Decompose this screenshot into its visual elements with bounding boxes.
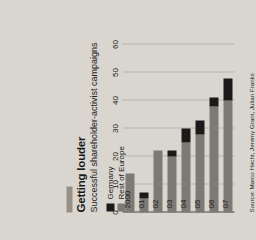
category-label-01: 01: [137, 200, 147, 201]
bar-segment-rest-of-europe: [195, 134, 199, 201]
bar-row[interactable]: [153, 45, 162, 202]
bar-row[interactable]: [181, 45, 190, 202]
page-title: Getting louder: [75, 137, 88, 201]
category-label-05: 05: [193, 200, 200, 201]
bar-row[interactable]: [167, 45, 176, 202]
chart-subtitle: Successful shareholder-activist campaign…: [89, 42, 100, 201]
bar-segment-germany: [139, 193, 148, 199]
category-label-04: 04: [179, 200, 189, 201]
x-tick-label-50: 50: [111, 68, 121, 77]
bar-segment-rest-of-europe: [181, 143, 190, 202]
x-tick-label-30: 30: [111, 124, 121, 133]
rotated-page-canvas: Getting louder Successful shareholder-ac…: [61, 20, 200, 202]
x-tick-label-40: 40: [111, 96, 121, 105]
x-axis-tick-labels: 0102030405060: [111, 45, 123, 202]
x-tick-label-10: 10: [111, 180, 121, 189]
category-label-2000: 2000: [123, 191, 133, 201]
x-tick-label-20: 20: [111, 152, 121, 161]
bar-segment-germany: [167, 151, 176, 157]
bar-segment-rest-of-europe: [153, 151, 162, 201]
category-label-02: 02: [151, 200, 161, 201]
plot-area: 0102030405060 200001020304050607: [123, 45, 200, 202]
chart-figure: Getting louder Successful shareholder-ac…: [61, 20, 200, 202]
bar-segment-rest-of-europe: [167, 157, 176, 202]
bar-series-group: [123, 45, 200, 202]
bar-row[interactable]: [139, 45, 148, 202]
accent-rule: [67, 187, 73, 202]
bar-row[interactable]: [195, 45, 199, 202]
category-label-03: 03: [165, 200, 175, 201]
bar-segment-germany: [195, 120, 199, 134]
bar-row[interactable]: [125, 45, 134, 202]
bar-segment-germany: [181, 129, 190, 143]
x-tick-label-60: 60: [111, 40, 121, 49]
